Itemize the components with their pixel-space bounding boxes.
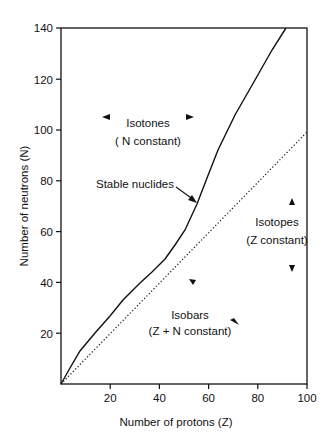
y-tick-label: 100 [34, 124, 53, 136]
isotopes-label: Isotopes [255, 216, 299, 228]
y-tick-labels: 20 40 60 80 100 120 140 [34, 22, 53, 339]
arrow-right-icon [186, 114, 194, 120]
x-tick-label: 80 [251, 392, 264, 404]
y-tick-label: 120 [34, 74, 53, 86]
isobars-label: Isobars [171, 309, 209, 321]
isobars-sublabel: (Z + N constant) [149, 325, 232, 337]
x-axis [110, 384, 307, 389]
isotones-sublabel: ( N constant) [115, 135, 181, 147]
arrow-up-icon [289, 198, 295, 205]
x-axis-title: Number of protons (Z) [119, 416, 232, 428]
x-tick-labels: 20 40 60 80 100 [104, 392, 317, 404]
y-tick-label: 40 [40, 277, 53, 289]
isotones-label: Isotones [126, 117, 170, 129]
y-tick-label: 20 [40, 328, 53, 340]
y-axis [56, 28, 61, 333]
y-tick-label: 60 [40, 226, 53, 238]
arrow-down-icon [289, 265, 295, 272]
isotopes-sublabel: (Z constant) [246, 234, 308, 246]
x-tick-label: 100 [297, 392, 316, 404]
y-axis-title: Number of neutrons (N) [18, 145, 30, 266]
y-tick-label: 80 [40, 175, 53, 187]
y-tick-label: 140 [34, 22, 53, 34]
arrow-up-left-icon [189, 279, 196, 285]
chart: 20 40 60 80 100 120 140 20 40 60 80 100 … [0, 0, 328, 442]
arrow-down-right-icon [230, 318, 239, 325]
stable-nuclides-label: Stable nuclides [96, 178, 174, 190]
arrow-left-icon [102, 114, 110, 120]
x-tick-label: 40 [153, 392, 166, 404]
n-equals-z-line [61, 132, 307, 384]
x-tick-label: 20 [104, 392, 117, 404]
x-tick-label: 60 [202, 392, 215, 404]
